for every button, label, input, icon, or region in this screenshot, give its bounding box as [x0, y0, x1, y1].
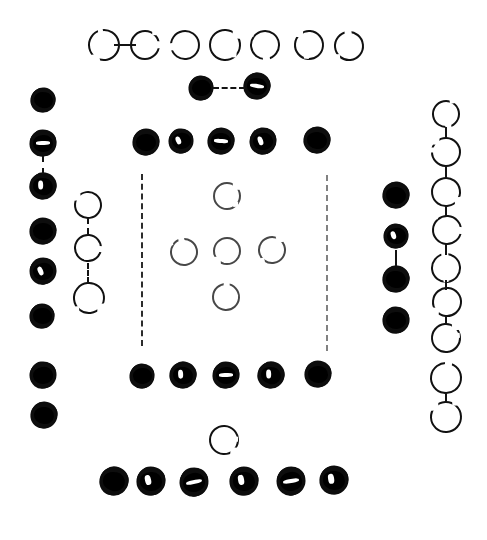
filled-node — [137, 467, 165, 495]
ring-gap — [213, 257, 220, 264]
filled-node — [275, 465, 307, 497]
ring-gap — [97, 304, 106, 313]
connector-link — [445, 166, 447, 178]
filled-node — [133, 129, 160, 156]
filled-node — [207, 127, 235, 155]
connector-link — [445, 393, 447, 403]
filled-node — [29, 86, 56, 113]
ring-gap-secondary — [84, 256, 89, 261]
open-ring-node — [213, 237, 241, 265]
connector-link — [445, 315, 447, 325]
open-ring-node — [168, 28, 203, 63]
connector-link — [445, 127, 447, 139]
filled-node — [230, 467, 258, 495]
ring-gap-secondary — [454, 197, 459, 202]
ring-gap-secondary — [233, 437, 238, 442]
filled-node — [381, 264, 410, 293]
ring-gap-secondary — [433, 214, 438, 219]
open-ring-node — [430, 98, 463, 131]
ring-gap-secondary — [168, 241, 173, 246]
filled-node — [249, 127, 278, 156]
ring-gap-secondary — [97, 27, 103, 33]
filled-node — [30, 218, 56, 244]
open-ring-node — [73, 233, 103, 263]
vertical-rail — [326, 175, 328, 351]
ring-gap — [233, 182, 240, 189]
dot-circle-diagram — [0, 0, 487, 540]
ring-gap-secondary — [452, 401, 457, 406]
ring-gap-secondary — [232, 53, 237, 58]
ring-gap-secondary — [249, 32, 254, 37]
open-ring-node — [71, 280, 106, 315]
connector-link — [445, 243, 447, 255]
open-ring-node — [256, 234, 288, 266]
open-ring-node — [293, 29, 326, 62]
open-ring-node — [208, 424, 240, 456]
open-ring-node — [211, 282, 240, 311]
open-ring-node — [333, 30, 366, 63]
ring-gap-secondary — [260, 258, 265, 263]
ring-gap-secondary — [234, 294, 239, 299]
ring-gap-secondary — [429, 148, 434, 153]
connector-link — [87, 218, 89, 234]
open-ring-node — [208, 28, 242, 62]
filled-node — [129, 363, 155, 389]
ring-gap — [96, 245, 104, 252]
ring-gap — [276, 234, 284, 242]
filled-node — [242, 71, 271, 100]
ring-gap-secondary — [450, 99, 455, 104]
filled-node — [303, 126, 332, 155]
filled-node — [167, 127, 194, 154]
connector-link — [445, 205, 447, 217]
filled-node — [256, 360, 286, 390]
filled-node — [319, 465, 348, 494]
ring-gap-secondary — [74, 306, 80, 312]
filled-node — [28, 360, 58, 390]
ring-gap-secondary — [431, 307, 436, 312]
filled-node — [30, 130, 57, 157]
filled-node — [213, 362, 240, 389]
ring-gap-secondary — [335, 54, 340, 59]
ring-gap — [90, 54, 100, 64]
open-ring-node — [429, 175, 463, 209]
open-ring-node — [431, 214, 463, 246]
filled-node — [188, 75, 214, 101]
ring-gap — [451, 322, 459, 330]
vertical-rail — [141, 174, 143, 346]
filled-node — [30, 401, 58, 429]
filled-node — [28, 171, 58, 201]
open-ring-node — [430, 322, 463, 355]
ring-gap — [295, 29, 303, 37]
connector-link — [114, 44, 136, 46]
ring-gap — [430, 402, 439, 411]
ring-gap-secondary — [444, 360, 450, 366]
filled-node — [177, 465, 210, 498]
ring-gap — [178, 236, 186, 244]
ring-gap-secondary — [454, 333, 459, 338]
ring-gap — [233, 30, 242, 39]
connector-link — [445, 280, 447, 290]
ring-gap — [344, 29, 352, 37]
open-ring-node — [72, 189, 104, 221]
open-ring-node — [430, 136, 461, 167]
filled-node — [382, 306, 409, 333]
filled-node — [382, 181, 411, 210]
ring-gap — [154, 42, 162, 49]
open-ring-node — [248, 28, 282, 62]
filled-node — [30, 304, 55, 329]
ring-gap-secondary — [304, 53, 309, 58]
filled-node — [98, 465, 130, 497]
ring-gap-secondary — [152, 31, 157, 36]
ring-gap-secondary — [168, 43, 173, 48]
filled-node — [305, 361, 331, 387]
ring-gap — [432, 137, 440, 145]
open-ring-node — [429, 400, 463, 434]
ring-gap-secondary — [233, 202, 237, 206]
ring-gap — [224, 282, 231, 290]
connector-link — [42, 156, 44, 174]
filled-node — [28, 256, 58, 286]
ring-gap — [230, 447, 238, 455]
ring-gap-secondary — [73, 193, 78, 198]
open-ring-node — [167, 235, 200, 268]
open-ring-node — [428, 360, 464, 396]
